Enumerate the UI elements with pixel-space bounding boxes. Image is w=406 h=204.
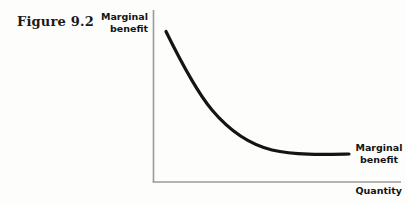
figure-container: Figure 9.2 Marginal benefit Marginal ben… (0, 0, 406, 204)
plot-area (0, 0, 406, 204)
marginal-benefit-curve (166, 32, 349, 155)
